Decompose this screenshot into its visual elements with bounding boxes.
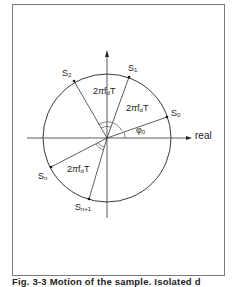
- point-sn-icon: [50, 166, 53, 169]
- phase-label: φ0: [136, 126, 145, 135]
- point-s2-icon: [73, 80, 76, 83]
- label-s1: S1: [128, 64, 137, 73]
- real-axis-label: real: [195, 131, 212, 141]
- point-sn1-icon: [88, 198, 91, 201]
- label-s0: S0: [171, 109, 180, 118]
- label-sn: Sn: [38, 172, 47, 181]
- upper-angle-arc-inner-icon: [101, 126, 111, 128]
- point-s0-icon: [166, 116, 169, 119]
- point-s1-icon: [128, 76, 131, 79]
- radius-sn: [51, 138, 107, 167]
- label-sn1: Sn+1: [75, 203, 91, 212]
- real-axis-arrow-icon: [186, 136, 192, 140]
- angle-label-right: 2πfdT: [126, 104, 148, 113]
- phase-angle-arc-icon: [124, 132, 125, 138]
- lower-angle-arc-inner-icon: [98, 143, 105, 147]
- label-s2: S2: [62, 69, 71, 78]
- angle-label-upper: 2πfdT: [93, 87, 115, 96]
- figure-caption: Fig. 3-3 Motion of the sample. Isolated …: [12, 277, 201, 287]
- imaginary-axis-arrow-icon: [105, 50, 109, 57]
- angle-label-lower: 2πfdT: [67, 165, 89, 174]
